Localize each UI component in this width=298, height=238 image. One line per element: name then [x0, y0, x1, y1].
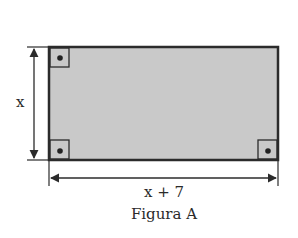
- figure-a-diagram: x x + 7 Figura A: [0, 0, 298, 238]
- width-label: x + 7: [0, 183, 298, 201]
- rectangle: [49, 47, 278, 160]
- figure-caption: Figura A: [0, 205, 298, 223]
- diagram-canvas: [0, 0, 298, 238]
- height-label: x: [16, 93, 24, 111]
